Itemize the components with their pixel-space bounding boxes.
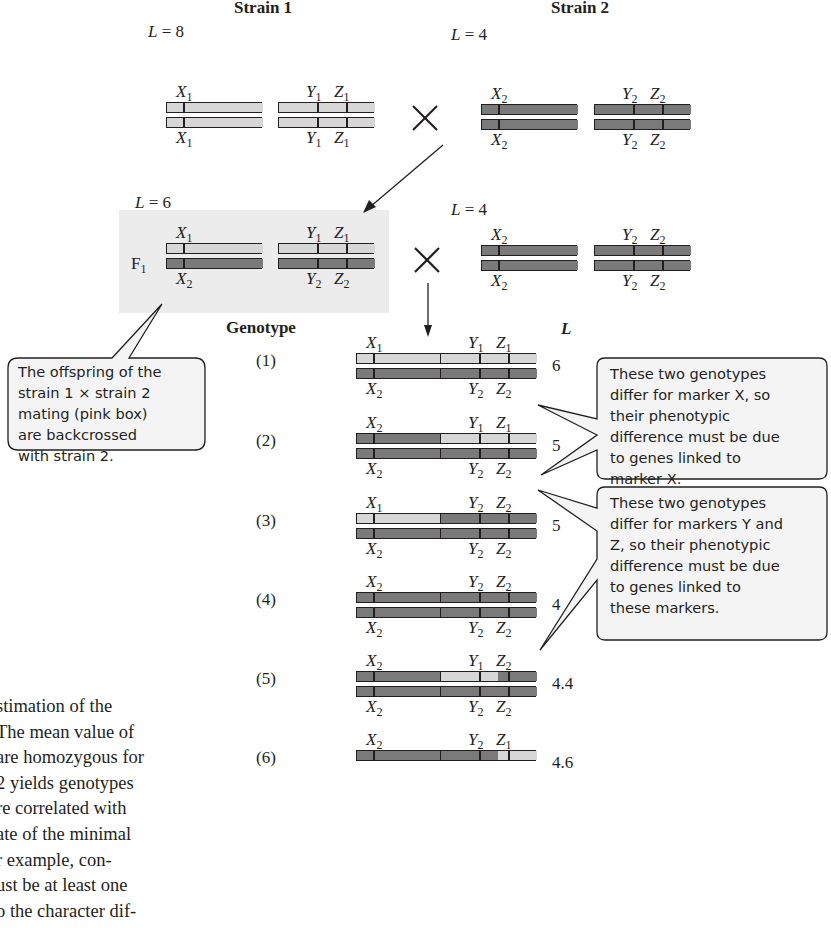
marker-label-y: Y2	[468, 730, 483, 750]
marker-label-y: Y2	[622, 225, 637, 245]
x-chromosome	[356, 607, 452, 618]
marker-label-z: Z2	[496, 572, 511, 592]
x-chromosome	[356, 353, 452, 364]
body-line: o the character dif-	[0, 899, 144, 925]
genotype-l-value: 5	[552, 436, 561, 456]
callout-line: to genes linked to	[610, 447, 780, 468]
callout-line: their phenotypic	[610, 405, 780, 426]
callout-line: difference must be due	[610, 555, 783, 576]
yz-chromosome	[278, 102, 374, 113]
marker-label-z: Z2	[496, 459, 511, 479]
marker-label-z: Z2	[496, 651, 511, 671]
yz-chromosome	[278, 243, 374, 254]
yz-chromosome	[278, 258, 374, 269]
marker-label-x: X2	[366, 618, 382, 638]
callout-line: differ for marker X, so	[610, 384, 780, 405]
callout-line: differ for markers Y and	[610, 513, 783, 534]
genotype-l-value: 4.6	[552, 753, 573, 773]
genotype-id: (5)	[256, 669, 276, 689]
yz-chromosome	[440, 592, 536, 603]
body-line: are homozygous for	[0, 745, 144, 771]
x-chromosome	[481, 119, 577, 130]
marker-yz-callout: These two genotypes differ for markers Y…	[610, 492, 783, 618]
body-line: r example, con-	[0, 848, 144, 874]
marker-label-y: Y2	[468, 539, 483, 559]
backcross-callout: The offspring of the strain 1 × strain 2…	[18, 361, 162, 466]
body-line: stimation of the	[0, 694, 144, 720]
genotype-id: (6)	[256, 748, 276, 768]
x-chromosome	[166, 243, 262, 254]
marker-label-z: Z2	[334, 269, 349, 289]
x-chromosome	[166, 258, 262, 269]
yz-chromosome	[594, 245, 690, 256]
body-line: ate of the minimal	[0, 822, 144, 848]
genotype-id: (1)	[256, 351, 276, 371]
x-chromosome	[356, 433, 452, 444]
marker-label-z: Z1	[334, 128, 349, 148]
genotype-l-value: 6	[552, 356, 561, 376]
yz-chromosome	[440, 433, 536, 444]
yz-chromosome	[440, 513, 536, 524]
callout-line: The offspring of the	[18, 361, 162, 382]
marker-label-z: Z2	[650, 271, 665, 291]
genotype-id: (3)	[256, 511, 276, 531]
x-chromosome	[481, 260, 577, 271]
yz-chromosome	[440, 353, 536, 364]
marker-label-y: Y2	[468, 618, 483, 638]
marker-label-y: Y2	[468, 493, 483, 513]
marker-label-x: X1	[176, 223, 192, 243]
yz-chromosome	[440, 528, 536, 539]
x-chromosome	[356, 528, 452, 539]
x-chromosome	[356, 513, 452, 524]
yz-chromosome	[594, 104, 690, 115]
marker-label-z: Z1	[334, 223, 349, 243]
qtl-backcross-diagram: Strain 1 Strain 2 L = 8 L = 4 L = 6 F1 L…	[0, 0, 831, 941]
marker-label-x: X2	[491, 225, 507, 245]
callout-line: marker X.	[610, 468, 780, 489]
callout-line: strain 1 × strain 2	[18, 382, 162, 403]
marker-label-z: Z2	[496, 379, 511, 399]
marker-label-z: Z2	[496, 539, 511, 559]
cross-symbol-2	[415, 248, 439, 272]
marker-label-z: Z1	[334, 82, 349, 102]
marker-label-z: Z1	[496, 333, 511, 353]
body-line: ust be at least one	[0, 873, 144, 899]
marker-label-z: Z2	[496, 493, 511, 513]
callout-line: to genes linked to	[610, 576, 783, 597]
callout-line: These two genotypes	[610, 492, 783, 513]
marker-label-y: Y2	[468, 379, 483, 399]
marker-label-x: X2	[366, 651, 382, 671]
genotype-l-value: 4.4	[552, 674, 573, 694]
x-chromosome	[166, 117, 262, 128]
marker-label-y: Y2	[306, 269, 321, 289]
marker-label-x: X2	[366, 459, 382, 479]
x-chromosome	[356, 686, 452, 697]
marker-label-x: X1	[366, 493, 382, 513]
callout-line: these markers.	[610, 597, 783, 618]
yz-chromosome	[440, 607, 536, 618]
body-text: stimation of the The mean value of are h…	[0, 694, 144, 924]
marker-label-z: Z1	[496, 413, 511, 433]
marker-label-y: Y2	[468, 572, 483, 592]
marker-label-x: X2	[176, 269, 192, 289]
marker-label-x: X2	[366, 697, 382, 717]
x-chromosome	[356, 592, 452, 603]
yz-chromosome	[594, 260, 690, 271]
yz-chromosome	[278, 117, 374, 128]
x-chromosome	[166, 102, 262, 113]
yz-chromosome	[440, 368, 536, 379]
x-chromosome	[356, 448, 452, 459]
body-line: 2 yields genotypes	[0, 771, 144, 797]
marker-label-x: X2	[366, 539, 382, 559]
marker-label-z: Z2	[650, 225, 665, 245]
callout-line: are backcrossed	[18, 424, 162, 445]
body-line: re correlated with	[0, 796, 144, 822]
marker-label-y: Y2	[622, 84, 637, 104]
marker-label-y: Y2	[468, 459, 483, 479]
marker-label-x: X1	[176, 82, 192, 102]
marker-label-y: Y1	[306, 223, 321, 243]
cross-symbol-1	[413, 106, 437, 130]
marker-label-z: Z2	[650, 130, 665, 150]
marker-label-z: Z2	[650, 84, 665, 104]
marker-label-x: X2	[491, 84, 507, 104]
